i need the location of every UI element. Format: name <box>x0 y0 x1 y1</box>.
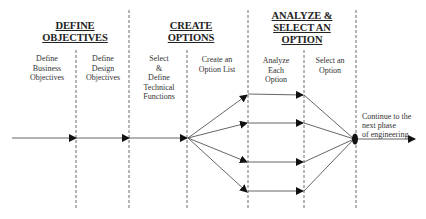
step-label-line: Define <box>136 73 182 83</box>
step-analyze-each-option: Analyze Each Option <box>250 56 302 85</box>
step-create-option-list: Create an Option List <box>188 55 246 74</box>
step-label-line: Business <box>18 64 76 74</box>
step-label-line: Select <box>136 54 182 64</box>
step-label-line: Design <box>78 64 128 74</box>
step-define-business-objectives: Define Business Objectives <box>18 54 76 83</box>
step-label-line: Create an <box>188 55 246 65</box>
note-line: next phase <box>362 121 426 130</box>
step-label-line: Define <box>18 54 76 64</box>
note-line: Continue to the <box>362 112 426 121</box>
engineering-process-diagram: DEFINE OBJECTIVES CREATE OPTIONS ANALYZE… <box>0 0 426 219</box>
step-select-define-technical-functions: Select & Define Technical Functions <box>136 54 182 102</box>
convergence-node <box>352 134 358 145</box>
fan-out-arrow-3 <box>188 138 247 162</box>
converge-line-2 <box>304 123 354 139</box>
step-label-line: Select an <box>306 56 354 66</box>
fan-out-arrow-2 <box>188 123 247 138</box>
fan-out-arrow-1 <box>188 95 247 138</box>
step-label-line: Objectives <box>78 73 128 83</box>
step-label-line: Each <box>250 66 302 76</box>
converge-line-1 <box>304 95 354 139</box>
output-note: Continue to the next phase of engineerin… <box>362 112 426 139</box>
step-label-line: Define <box>78 54 128 64</box>
step-label-line: Functions <box>136 92 182 102</box>
step-label-line: Analyze <box>250 56 302 66</box>
phase-title-create-options: CREATE OPTIONS <box>146 20 236 44</box>
step-label-line: Objectives <box>18 73 76 83</box>
step-label-line: Technical <box>136 83 182 93</box>
phase-title-line: SELECT AN OPTION <box>252 22 352 46</box>
phase-title-analyze-select: ANALYZE & SELECT AN OPTION <box>252 10 352 46</box>
step-label-line: Option List <box>188 65 246 75</box>
step-label-line: Option <box>250 75 302 85</box>
converge-line-4 <box>304 139 354 191</box>
step-define-design-objectives: Define Design Objectives <box>78 54 128 83</box>
phase-title-line: ANALYZE & <box>252 10 352 22</box>
phase-title-define-objectives: DEFINE OBJECTIVES <box>24 20 126 44</box>
step-label-line: Option <box>306 66 354 76</box>
fan-out-arrow-4 <box>188 138 247 192</box>
analyze-arrow-1 <box>248 94 303 95</box>
converge-line-3 <box>304 139 354 162</box>
step-label-line: & <box>136 64 182 74</box>
step-select-an-option: Select an Option <box>306 56 354 75</box>
note-line: of engineering <box>362 130 426 139</box>
